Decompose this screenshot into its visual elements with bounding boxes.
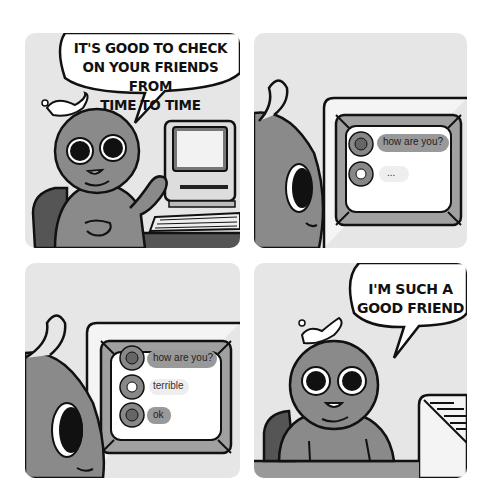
- speech-text: I'M SUCH A GOOD FRIEND: [354, 280, 467, 318]
- comic-panel-3: how are you? terrible ok: [25, 263, 240, 478]
- speech-line: GOOD FRIEND: [354, 299, 467, 318]
- chat-message: how are you?: [153, 352, 213, 363]
- chat-message: ...: [387, 167, 395, 178]
- chat-message: how are you?: [383, 136, 443, 147]
- speech-line: I'M SUCH A: [354, 280, 467, 299]
- comic-panel-1: IT'S GOOD TO CHECK ON YOUR FRIENDS FROM …: [25, 33, 240, 248]
- speech-text: IT'S GOOD TO CHECK ON YOUR FRIENDS FROM …: [63, 39, 238, 115]
- comic-panel-2: how are you? ...: [254, 33, 467, 248]
- speech-line: ON YOUR FRIENDS FROM: [63, 58, 238, 96]
- chat-message: terrible: [153, 380, 184, 391]
- chat-message: ok: [153, 409, 164, 420]
- speech-line: TIME TO TIME: [63, 96, 238, 115]
- comic-panel-4: I'M SUCH A GOOD FRIEND: [254, 263, 467, 478]
- speech-line: IT'S GOOD TO CHECK: [63, 39, 238, 58]
- panel-3-artwork: [25, 263, 240, 478]
